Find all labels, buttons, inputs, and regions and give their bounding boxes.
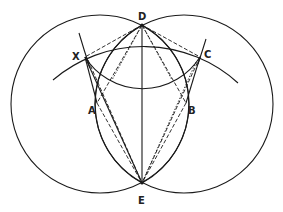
label-D: D	[138, 11, 146, 22]
point-E-marker	[140, 181, 143, 184]
line-XE	[85, 57, 142, 183]
label-A: A	[88, 105, 96, 116]
line-D-inner-right	[142, 25, 172, 80]
line-CB	[186, 57, 200, 103]
line-C-E-2	[142, 62, 196, 183]
label-C: C	[204, 49, 211, 60]
right-circle	[95, 15, 273, 193]
label-E: E	[138, 195, 145, 206]
label-X: X	[72, 51, 80, 62]
line-DA	[97, 25, 142, 103]
diagram-canvas: D E X C A B	[0, 0, 283, 212]
geometry-diagram: D E X C A B	[0, 0, 283, 212]
line-X-E-2	[88, 60, 142, 183]
point-D-marker	[140, 23, 143, 26]
arc-through-X	[79, 33, 90, 68]
line-D-inner-left	[112, 25, 142, 80]
left-circle	[11, 15, 189, 193]
label-B: B	[188, 105, 196, 116]
